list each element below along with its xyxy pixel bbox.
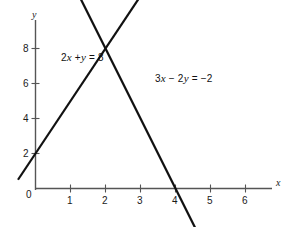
x-tick-label-4: 4 — [172, 196, 178, 206]
eq2-result: = −2 — [189, 73, 213, 84]
x-tick-label-1: 1 — [67, 196, 73, 206]
y-tick-label-2: 2 — [23, 149, 29, 159]
equation-label-line2: 3x − 2y = −2 — [155, 73, 213, 84]
equation-label-line1: 2x +y = 8 — [61, 52, 104, 63]
x-tick-label-6: 6 — [242, 196, 248, 206]
x-axis-label: x — [276, 178, 280, 188]
eq1-result: = 8 — [86, 52, 104, 63]
y-tick-label-6: 6 — [23, 79, 29, 89]
line-2x-plus-y-equals-8 — [18, 0, 205, 227]
y-tick-label-8: 8 — [23, 44, 29, 54]
x-tick-label-3: 3 — [137, 196, 143, 206]
eq2-operator: − 2 — [166, 73, 184, 84]
eq1-operator: + — [72, 52, 81, 63]
line-3x-minus-2y-equals-minus2 — [18, 0, 211, 180]
y-tick-label-4: 4 — [23, 114, 29, 124]
y-axis-label: y — [32, 10, 36, 20]
graph-figure: y x 0 2 4 6 8 1 2 3 4 5 6 2x +y = 8 3x −… — [0, 0, 296, 227]
plot-canvas — [0, 0, 296, 227]
origin-tick-label: 0 — [26, 190, 32, 200]
x-tick-label-5: 5 — [207, 196, 213, 206]
x-tick-label-2: 2 — [102, 196, 108, 206]
